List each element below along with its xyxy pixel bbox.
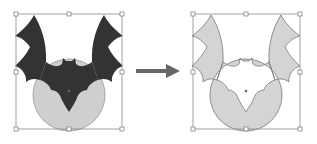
diagram-stage	[0, 0, 317, 144]
bat-shape	[15, 15, 123, 112]
result-shape	[192, 15, 300, 131]
before-shape	[14, 12, 124, 131]
center-point	[68, 90, 71, 93]
center-point	[245, 90, 248, 93]
after-shape	[191, 12, 302, 131]
arrow-right-icon	[136, 64, 180, 78]
